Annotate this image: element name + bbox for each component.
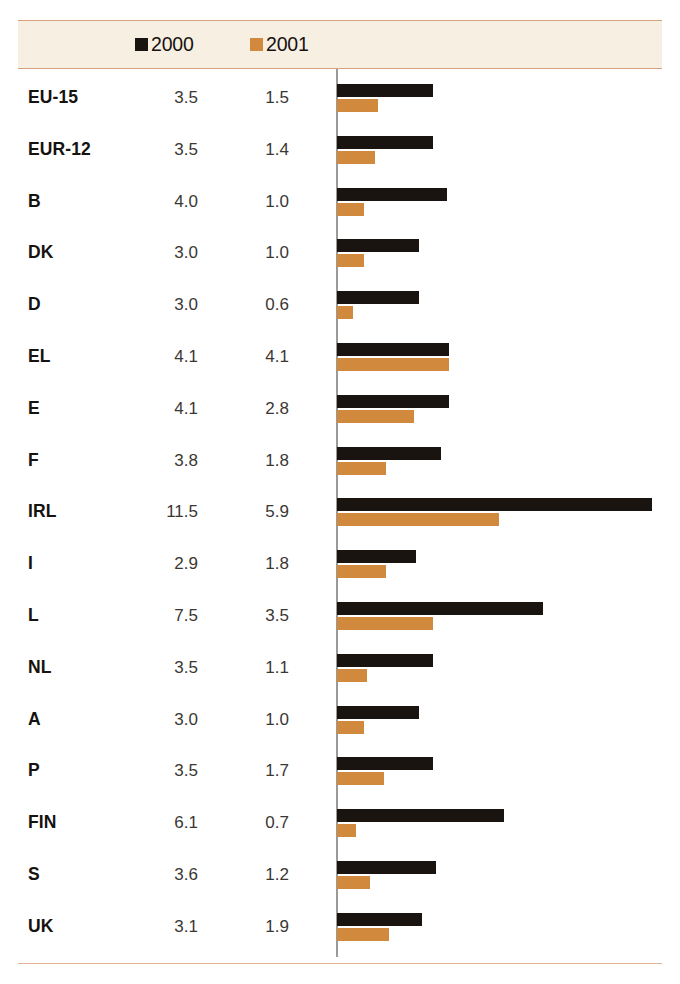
row-value-2001: 1.7 — [226, 761, 289, 781]
row-category-label: FIN — [28, 812, 57, 833]
chart-rows: EU-153.51.5EUR-123.51.4B4.01.0DK3.01.0D3… — [0, 75, 680, 956]
legend-label-2000: 2000 — [151, 35, 194, 55]
row-value-2000: 3.5 — [130, 88, 198, 108]
bar-2000 — [337, 188, 447, 201]
bar-2001 — [337, 99, 378, 112]
bar-2000 — [337, 654, 433, 667]
bar-2001 — [337, 772, 384, 785]
row-category-label: EL — [28, 346, 51, 367]
chart-row: S3.61.2 — [0, 852, 680, 904]
bar-2000 — [337, 395, 449, 408]
legend-item-2001: 2001 — [250, 35, 309, 55]
row-value-2000: 6.1 — [130, 813, 198, 833]
bar-2001 — [337, 513, 499, 526]
bar-2001 — [337, 928, 389, 941]
chart-row: D3.00.6 — [0, 282, 680, 334]
chart-row: FIN6.10.7 — [0, 800, 680, 852]
bar-chart: 2000 2001 EU-153.51.5EUR-123.51.4B4.01.0… — [0, 0, 680, 984]
row-value-2000: 3.0 — [130, 295, 198, 315]
chart-row: DK3.01.0 — [0, 230, 680, 282]
chart-row: EU-153.51.5 — [0, 75, 680, 127]
legend-label-2001: 2001 — [266, 35, 309, 55]
row-value-2000: 3.1 — [130, 917, 198, 937]
bar-2001 — [337, 876, 370, 889]
bar-2000 — [337, 239, 419, 252]
row-category-label: DK — [28, 242, 53, 263]
chart-row: NL3.51.1 — [0, 645, 680, 697]
row-category-label: NL — [28, 657, 52, 678]
bar-2001 — [337, 669, 367, 682]
bar-2000 — [337, 706, 419, 719]
row-value-2000: 11.5 — [130, 502, 198, 522]
row-value-2001: 1.2 — [226, 865, 289, 885]
row-value-2000: 3.5 — [130, 761, 198, 781]
row-category-label: UK — [28, 916, 53, 937]
row-value-2001: 1.4 — [226, 140, 289, 160]
bar-2000 — [337, 447, 441, 460]
row-category-label: L — [28, 605, 39, 626]
row-value-2000: 3.8 — [130, 451, 198, 471]
row-value-2001: 1.0 — [226, 710, 289, 730]
bar-2000 — [337, 498, 652, 511]
row-value-2001: 5.9 — [226, 502, 289, 522]
bar-2000 — [337, 136, 433, 149]
row-category-label: P — [28, 760, 40, 781]
bar-2001 — [337, 462, 386, 475]
row-value-2000: 4.1 — [130, 347, 198, 367]
square-marker-icon — [250, 38, 263, 51]
row-value-2001: 2.8 — [226, 399, 289, 419]
bottom-rule — [18, 963, 662, 964]
row-category-label: EU-15 — [28, 87, 78, 108]
row-value-2001: 0.6 — [226, 295, 289, 315]
legend-item-2000: 2000 — [135, 35, 194, 55]
row-category-label: F — [28, 450, 39, 471]
row-value-2000: 7.5 — [130, 606, 198, 626]
row-value-2000: 3.0 — [130, 243, 198, 263]
bar-2000 — [337, 757, 433, 770]
bar-2000 — [337, 913, 422, 926]
row-category-label: IRL — [28, 501, 57, 522]
bar-2001 — [337, 306, 353, 319]
chart-row: L7.53.5 — [0, 593, 680, 645]
bar-2000 — [337, 343, 449, 356]
row-value-2001: 1.8 — [226, 451, 289, 471]
row-value-2000: 3.5 — [130, 658, 198, 678]
square-marker-icon — [135, 38, 148, 51]
chart-row: A3.01.0 — [0, 697, 680, 749]
bar-2001 — [337, 203, 364, 216]
row-category-label: E — [28, 398, 40, 419]
legend-entries: 2000 2001 — [18, 21, 662, 68]
bar-2001 — [337, 151, 375, 164]
row-value-2001: 1.8 — [226, 554, 289, 574]
bar-2001 — [337, 410, 414, 423]
row-value-2001: 1.9 — [226, 917, 289, 937]
bar-2001 — [337, 565, 386, 578]
row-value-2000: 2.9 — [130, 554, 198, 574]
row-value-2001: 1.0 — [226, 243, 289, 263]
chart-row: E4.12.8 — [0, 386, 680, 438]
chart-row: P3.51.7 — [0, 748, 680, 800]
chart-row: UK3.11.9 — [0, 904, 680, 956]
row-value-2000: 3.5 — [130, 140, 198, 160]
row-value-2000: 3.6 — [130, 865, 198, 885]
row-value-2000: 3.0 — [130, 710, 198, 730]
chart-row: EL4.14.1 — [0, 334, 680, 386]
row-value-2001: 4.1 — [226, 347, 289, 367]
chart-row: EUR-123.51.4 — [0, 127, 680, 179]
legend: 2000 2001 — [18, 20, 662, 69]
row-value-2001: 0.7 — [226, 813, 289, 833]
chart-row: B4.01.0 — [0, 179, 680, 231]
row-category-label: I — [28, 553, 33, 574]
chart-row: I2.91.8 — [0, 541, 680, 593]
row-value-2001: 1.5 — [226, 88, 289, 108]
bar-2001 — [337, 617, 433, 630]
row-value-2000: 4.0 — [130, 192, 198, 212]
row-category-label: S — [28, 864, 40, 885]
row-category-label: D — [28, 294, 41, 315]
chart-row: IRL11.55.9 — [0, 489, 680, 541]
bar-2001 — [337, 358, 449, 371]
row-value-2001: 1.1 — [226, 658, 289, 678]
bar-2000 — [337, 861, 436, 874]
bar-2000 — [337, 84, 433, 97]
row-category-label: B — [28, 191, 41, 212]
